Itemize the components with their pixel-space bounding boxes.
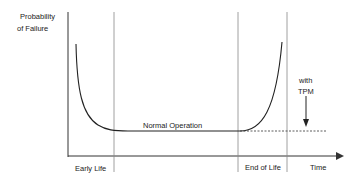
annotation-tpm: TPM — [298, 87, 314, 96]
y-axis-label-1: Probability — [20, 12, 55, 21]
failure-curve — [76, 42, 282, 131]
x-axis-arrow-icon — [336, 152, 344, 160]
phase-label-end-of-life: End of Life — [245, 163, 281, 172]
phase-label-early-life: Early Life — [75, 164, 106, 173]
annotation-with: with — [299, 76, 312, 85]
x-axis-label: Time — [310, 163, 326, 172]
arrow-down-icon — [303, 119, 309, 127]
curve-label: Normal Operation — [143, 121, 202, 130]
y-axis-label-2: of Failure — [17, 24, 48, 33]
